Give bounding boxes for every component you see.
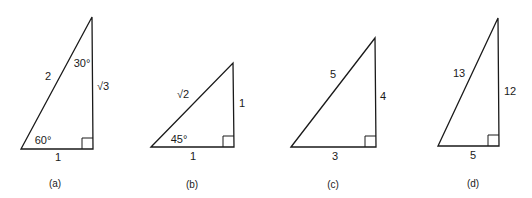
triangle-a-hypotenuse-label: 2 xyxy=(45,70,51,82)
triangle-d-vertical-side-label: 12 xyxy=(504,85,516,97)
triangle-d: 13 12 5 (d) xyxy=(438,18,516,189)
triangle-a-right-angle-marker xyxy=(82,138,93,149)
triangle-b-vertical-side-label: 1 xyxy=(239,97,245,109)
triangle-b-bottom-angle-label: 45° xyxy=(171,133,188,145)
triangle-d-hypotenuse-label: 13 xyxy=(453,67,465,79)
triangle-d-right-angle-marker xyxy=(488,135,499,146)
triangle-a-bottom-angle-label: 60° xyxy=(35,134,52,146)
triangle-b-caption: (b) xyxy=(186,179,198,190)
triangle-c-outline xyxy=(291,38,376,147)
triangle-c-base-label: 3 xyxy=(332,150,338,162)
triangle-c-caption: (c) xyxy=(327,179,339,190)
triangle-d-base-label: 5 xyxy=(470,149,476,161)
right-triangles-figure: 2 30° √3 60° 1 (a) √2 1 45° 1 (b) 5 4 3 … xyxy=(0,0,532,198)
triangle-c-hypotenuse-label: 5 xyxy=(330,68,336,80)
triangle-b: √2 1 45° 1 (b) xyxy=(151,63,245,190)
triangle-a-top-angle-label: 30° xyxy=(74,57,91,69)
triangle-a-vertical-side-label: √3 xyxy=(97,80,109,92)
triangle-a: 2 30° √3 60° 1 (a) xyxy=(21,17,109,189)
triangle-c-right-angle-marker xyxy=(365,136,376,147)
triangle-c-vertical-side-label: 4 xyxy=(380,90,386,102)
triangle-b-outline xyxy=(151,63,234,147)
triangle-d-caption: (d) xyxy=(467,178,479,189)
triangle-a-caption: (a) xyxy=(49,178,61,189)
triangle-a-outline xyxy=(21,17,93,149)
triangle-c: 5 4 3 (c) xyxy=(291,38,386,190)
triangle-d-outline xyxy=(438,18,499,146)
triangle-b-base-label: 1 xyxy=(190,150,196,162)
triangle-b-hypotenuse-label: √2 xyxy=(177,88,189,100)
triangle-a-base-label: 1 xyxy=(55,151,61,163)
triangle-b-right-angle-marker xyxy=(223,136,234,147)
